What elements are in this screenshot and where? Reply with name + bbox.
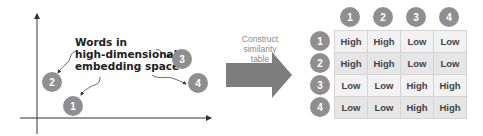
row-header-2: 2 [310,53,330,73]
pointer-to-2 [58,51,76,73]
table-cell: Low [335,97,368,119]
word-point-3: 3 [172,49,192,69]
label-line: similarity [222,44,298,54]
table-cell: Low [401,53,434,75]
pointer-to-1 [81,77,100,95]
table-cell: Low [401,31,434,53]
similarity-table: High High Low Low High High Low Low Low … [334,30,467,119]
table-cell: High [434,75,467,97]
label-line: embedding space [75,60,179,72]
table-row: Low Low High High [335,97,467,119]
table-cell: High [434,97,467,119]
pointer-to-4 [152,75,186,84]
table-cell: High [401,75,434,97]
table-cell: Low [434,31,467,53]
table-cell: Low [368,97,401,119]
table-row: Low Low High High [335,75,467,97]
column-header-1: 1 [340,7,360,27]
label-line: Words in [75,36,179,48]
table-cell: High [368,31,401,53]
column-header-2: 2 [373,7,393,27]
label-line: table [222,54,298,64]
table-cell: Low [335,75,368,97]
column-header-4: 4 [439,7,459,27]
label-line: Construct [222,34,298,44]
column-header-3: 3 [406,7,426,27]
construct-similarity-label: Construct similarity table [222,34,298,64]
table-cell: Low [368,75,401,97]
table-cell: Low [434,53,467,75]
table-cell: High [335,53,368,75]
label-line: high-dimensional [75,48,179,60]
word-point-2: 2 [42,72,62,92]
table-row: High High Low Low [335,53,467,75]
table-cell: High [368,53,401,75]
embedding-space-label: Words in high-dimensional embedding spac… [75,36,179,72]
word-point-4: 4 [188,73,208,93]
table-row: High High Low Low [335,31,467,53]
table-cell: High [401,97,434,119]
table-cell: High [335,31,368,53]
row-header-4: 4 [310,97,330,117]
row-header-3: 3 [310,75,330,95]
word-point-1: 1 [63,96,83,116]
row-header-1: 1 [310,31,330,51]
